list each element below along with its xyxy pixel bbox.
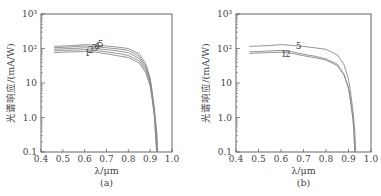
series-line-2 xyxy=(250,50,355,152)
series-line-1 xyxy=(54,52,157,153)
series-line-5 xyxy=(250,45,356,152)
x-axis-label: λ/μm xyxy=(291,165,315,176)
y-tick-label: 0.1 xyxy=(23,147,37,157)
x-tick-label: 0.6 xyxy=(274,154,289,164)
y-tick-label: 10² xyxy=(217,44,232,54)
x-tick-label: 0.8 xyxy=(121,154,136,164)
y-tick-label: 0.1 xyxy=(218,147,232,157)
plot-frame xyxy=(236,14,371,152)
y-axis-label: 光谱响应/(mA/W) xyxy=(5,43,16,122)
x-axis-label: λ/μm xyxy=(94,165,118,176)
y-tick-label: 10 xyxy=(26,78,38,88)
x-tick-label: 1.0 xyxy=(165,154,180,164)
x-tick-label: 0.5 xyxy=(251,154,266,164)
series-line-3 xyxy=(54,48,157,152)
y-tick-label: 10 xyxy=(221,78,233,88)
x-tick-label: 0.7 xyxy=(296,154,311,164)
y-tick-label: 1.0 xyxy=(23,113,38,123)
x-tick-label: 0.6 xyxy=(78,154,93,164)
curve-label: 2 xyxy=(285,49,291,59)
plot-frame xyxy=(41,14,172,152)
y-tick-label: 10³ xyxy=(217,9,232,19)
x-tick-label: 1.0 xyxy=(364,154,379,164)
series-line-2 xyxy=(54,50,157,152)
figure: 0.40.50.60.70.80.91.00.11.01010²10³12345… xyxy=(0,0,381,196)
y-tick-label: 10² xyxy=(22,44,37,54)
curve-label: 5 xyxy=(296,41,302,51)
x-tick-label: 0.7 xyxy=(99,154,114,164)
panel-caption: (a) xyxy=(100,177,113,188)
panel-caption: (b) xyxy=(297,177,311,188)
x-tick-label: 0.9 xyxy=(341,154,356,164)
panel-b-chart: 0.40.50.60.70.80.91.00.11.01010²10³125λ/… xyxy=(200,9,378,188)
x-tick-label: 0.5 xyxy=(56,154,71,164)
y-axis-label: 光谱响应/(mA/W) xyxy=(200,43,211,122)
x-tick-label: 0.8 xyxy=(319,154,334,164)
panel-a-chart: 0.40.50.60.70.80.91.00.11.01010²10³12345… xyxy=(5,9,179,188)
x-tick-label: 0.9 xyxy=(143,154,158,164)
y-tick-label: 10³ xyxy=(22,9,37,19)
y-tick-label: 1.0 xyxy=(218,113,233,123)
curve-label: 5 xyxy=(98,39,104,49)
